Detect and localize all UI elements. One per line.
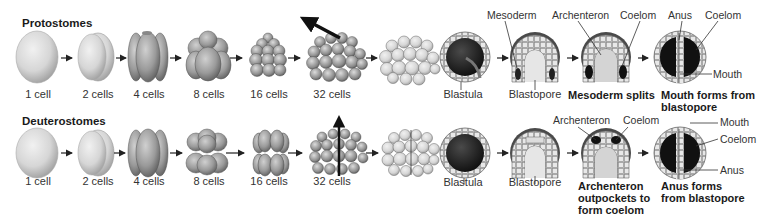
label-mouth: Mouth — [713, 68, 742, 80]
label-anus-d: Anus — [720, 164, 744, 176]
caption-1-cell-d: 1 cell — [20, 175, 56, 187]
sixteen-cell-icon — [250, 33, 287, 77]
label-coelom-d: Coelom — [623, 114, 659, 126]
label-archenteron-d: Archenteron — [553, 114, 610, 126]
caption-16-cells: 16 cells — [247, 88, 291, 100]
label-coelom-d2: Coelom — [720, 133, 756, 145]
caption-2-cells-d: 2 cells — [78, 175, 118, 187]
eight-cell-icon — [186, 31, 231, 81]
caption-4-cells: 4 cells — [129, 88, 169, 100]
label-mesoderm: Mesoderm — [487, 9, 537, 21]
label-mouth-d: Mouth — [720, 116, 749, 128]
caption-16-cells-d: 16 cells — [247, 175, 291, 187]
caption-blastopore: Blastopore — [507, 88, 563, 100]
caption-32-cells-d: 32 cells — [310, 175, 354, 187]
caption-2-cells: 2 cells — [78, 88, 118, 100]
label-coelom: Coelom — [620, 9, 656, 21]
label-archenteron: Archenteron — [552, 9, 609, 21]
caption-32-cells: 32 cells — [310, 88, 354, 100]
caption-1-cell: 1 cell — [20, 88, 56, 100]
caption-blastula-d: Blastula — [440, 176, 486, 188]
caption-archenteron-outpockets-2: outpockets to — [578, 192, 650, 204]
protostome-coelom-icon — [654, 21, 718, 83]
spiral-cleavage-arrow-icon — [306, 20, 340, 38]
caption-archenteron-outpockets-1: Archenteron — [578, 180, 643, 192]
caption-archenteron-outpockets-3: form coelom — [578, 204, 644, 216]
caption-mouth-forms-line1: Mouth forms from — [661, 89, 755, 101]
label-anus: Anus — [668, 9, 692, 21]
gastrula-icon — [505, 21, 560, 90]
caption-4-cells-d: 4 cells — [129, 175, 169, 187]
caption-mesoderm-splits: Mesoderm splits — [568, 89, 655, 101]
one-cell-icon — [16, 31, 58, 83]
morula-icon — [380, 36, 441, 85]
caption-8-cells-d: 8 cells — [189, 175, 229, 187]
blastula-icon — [440, 32, 490, 90]
caption-blastopore-d: Blastopore — [507, 176, 563, 188]
label-coelom-2: Coelom — [705, 9, 741, 21]
caption-anus-forms-1: Anus forms — [661, 180, 722, 192]
two-cell-icon — [78, 33, 114, 81]
caption-8-cells: 8 cells — [189, 88, 229, 100]
caption-blastula: Blastula — [440, 88, 486, 100]
mesoderm-split-icon — [578, 21, 640, 82]
four-cell-icon — [128, 31, 168, 82]
thirty-two-cell-icon — [307, 33, 368, 82]
caption-anus-forms-2: from blastopore — [661, 192, 745, 204]
